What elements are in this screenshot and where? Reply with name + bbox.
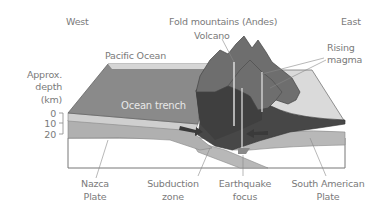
depth-label-line3: (km) [14,94,62,105]
volcano-label: Volcano [194,30,230,41]
depth-label-line2: depth [14,81,62,92]
rising-magma-label-line2: magma [327,54,362,65]
pacific-ocean-label: Pacific Ocean [105,50,166,61]
pacific-ocean-surface [68,64,210,124]
earthquake-focus-label-line1: Earthquake [210,178,280,189]
depth-scale-bracket [59,113,63,134]
ocean-rim [108,64,210,69]
ocean-trench-label: Ocean trench [121,100,186,111]
depth-tick-10: 10 [36,118,56,129]
subduction-zone-label-line1: Subduction [138,178,208,189]
fold-mountains-label: Fold mountains (Andes) [169,16,277,27]
rising-magma-label-line1: Rising [327,42,355,53]
west-label: West [66,16,89,27]
south-american-plate-label-line2: Plate [283,191,373,202]
depth-label-line1: Approx. [14,69,62,80]
subduction-zone-label-line2: zone [138,191,208,202]
south-american-plate-label-line1: South American [283,178,373,189]
east-label: East [341,16,361,27]
earthquake-focus-label-line2: focus [210,191,280,202]
plate-subduction-diagram: West Fold mountains (Andes) East Volcano… [0,0,382,218]
nazca-plate-label-line1: Nazca [70,178,120,189]
depth-tick-20: 20 [36,129,56,140]
nazca-plate-label-line2: Plate [70,191,120,202]
